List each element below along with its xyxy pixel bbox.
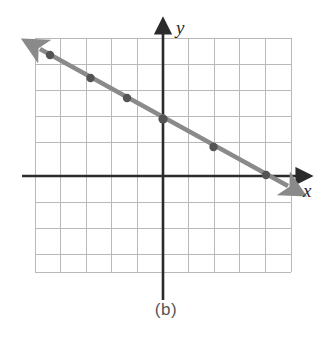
data-point [158, 114, 167, 123]
coordinate-plane-figure: y x [0, 0, 332, 349]
figure-caption: (b) [0, 300, 332, 320]
x-axis-label: x [302, 180, 312, 201]
y-axis-label: y [174, 17, 185, 38]
data-point [86, 74, 94, 82]
data-point [209, 143, 217, 151]
data-point [123, 94, 131, 102]
data-point [262, 171, 270, 179]
data-point [46, 51, 54, 59]
